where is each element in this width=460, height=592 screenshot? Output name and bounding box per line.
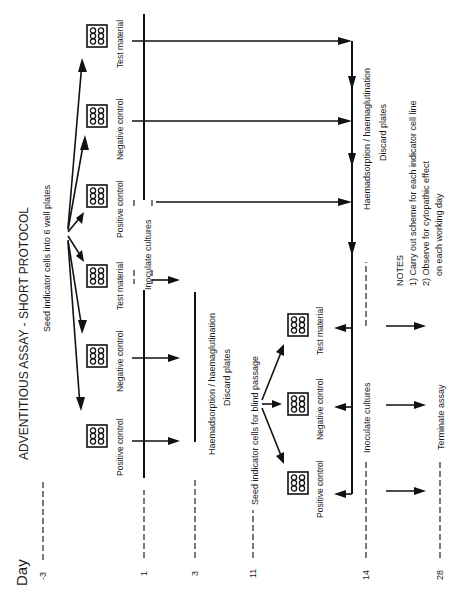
- note-item: 1) Carry out scheme for each indicator c…: [408, 100, 418, 286]
- note-item: on each working day: [434, 193, 444, 276]
- plate-label: Positive control: [315, 460, 325, 518]
- long-arrows: [132, 37, 352, 206]
- note-item: 2) Observe for cytopathic effect: [421, 161, 431, 286]
- plate-label: Test material: [115, 262, 125, 310]
- plate-labels-row-2: Test material Negative control Positive …: [315, 307, 325, 518]
- plate-label: Negative control: [315, 378, 325, 440]
- plate-label: Positive control: [115, 180, 125, 238]
- short-arrows-day3: [132, 276, 180, 445]
- inoculate-label-1: Inoculate cultures: [143, 219, 153, 290]
- terminate-label: Terminate assay: [436, 384, 446, 450]
- plate-icon: [87, 345, 107, 367]
- notes-heading: NOTES: [395, 255, 405, 286]
- day-label: 3: [190, 571, 200, 576]
- terminate-arrows: [386, 322, 426, 495]
- seed-arrows: [68, 58, 89, 411]
- plate-icon: [288, 314, 308, 336]
- day-label: -3: [38, 572, 48, 580]
- plate-icon: [87, 425, 107, 447]
- plates-row-1: [87, 25, 107, 447]
- plate-icon: [87, 265, 107, 287]
- day-label: 11: [248, 569, 258, 578]
- plate-label: Negative control: [115, 98, 125, 160]
- discard-label-1: Discard plates: [222, 348, 232, 406]
- plate-label: Test material: [315, 307, 325, 355]
- plate-icon: [87, 185, 107, 207]
- plate-label: Positive control: [115, 418, 125, 476]
- seed-cells-label: Seed indicator cells into 6 well plates: [42, 184, 52, 332]
- seed-blind-label: Seed indicator cells for blind passage: [250, 356, 260, 505]
- plate-icon: [87, 25, 107, 47]
- day-label: 28: [435, 570, 445, 580]
- plate-label: Test material: [115, 20, 125, 68]
- plate-icon: [87, 105, 107, 127]
- plate-labels-row-1: Test material Negative control Positive …: [115, 20, 125, 476]
- discard-label-2: Discard plates: [378, 103, 388, 161]
- haem-label-1: Haemadsorption / haemaglutination: [207, 313, 217, 455]
- day-label: 14: [361, 570, 371, 580]
- notes: NOTES 1) Carry out scheme for each indic…: [395, 100, 444, 286]
- plate-icon: [288, 472, 308, 494]
- inoculate-label-2: Inoculate cultures: [362, 382, 372, 453]
- plates-row-2: [288, 314, 308, 494]
- haem-label-2: Haemadsorption / haemaglutination: [362, 68, 372, 210]
- protocol-diagram: ADVENTITIOUS ASSAY - SHORT PROTOCOL Day …: [0, 0, 460, 592]
- day-ticks: -3 1 3 11 14 28: [38, 569, 445, 580]
- day-label: 1: [139, 571, 149, 576]
- diagram-title: ADVENTITIOUS ASSAY - SHORT PROTOCOL: [17, 207, 31, 460]
- plate-label: Negative control: [115, 330, 125, 392]
- blind-passage-arrows: [262, 344, 284, 464]
- day-dashed-lines: [43, 200, 440, 560]
- plate-icon: [288, 393, 308, 415]
- day-axis-label: Day: [13, 559, 30, 586]
- return-arrows: [334, 324, 352, 498]
